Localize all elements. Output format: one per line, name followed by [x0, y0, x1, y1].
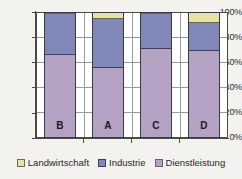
chart-legend: Landwirtschaft Industrie Dienstleistung [0, 158, 242, 168]
bars-layer: B A C D [36, 12, 228, 138]
bar-a[interactable]: A [92, 12, 124, 138]
bar-d-segment-industrie [189, 23, 219, 52]
bar-label-c: C [141, 120, 171, 131]
legend-swatch-industrie-icon [98, 159, 106, 167]
bar-label-b: B [45, 120, 75, 131]
bar-label-d: D [189, 120, 219, 131]
bar-d[interactable]: D [188, 12, 220, 138]
legend-item-industrie[interactable]: Industrie [98, 158, 145, 168]
bar-b[interactable]: B [44, 12, 76, 138]
bar-label-a: A [93, 120, 123, 131]
legend-label-industrie: Industrie [109, 158, 145, 168]
bar-c[interactable]: C [140, 12, 172, 138]
legend-item-dienstleistung[interactable]: Dienstleistung [155, 158, 226, 168]
legend-swatch-dienstleistung-icon [155, 159, 163, 167]
stacked-bar-chart: 100% 80% 60% 40% 20% 0% B [0, 0, 242, 179]
x-tick-3 [179, 139, 180, 143]
legend-item-landwirtschaft[interactable]: Landwirtschaft [17, 158, 89, 168]
x-tick-1 [83, 139, 84, 143]
bar-a-segment-industrie [93, 19, 123, 67]
legend-label-landwirtschaft: Landwirtschaft [28, 158, 89, 168]
x-tick-2 [131, 139, 132, 143]
legend-label-dienstleistung: Dienstleistung [166, 158, 226, 168]
legend-swatch-landwirtschaft-icon [17, 159, 25, 167]
bar-d-segment-landwirtschaft [189, 13, 219, 23]
bar-c-segment-industrie [141, 14, 171, 49]
x-axis-line [35, 138, 229, 139]
bar-b-segment-industrie [45, 14, 75, 55]
